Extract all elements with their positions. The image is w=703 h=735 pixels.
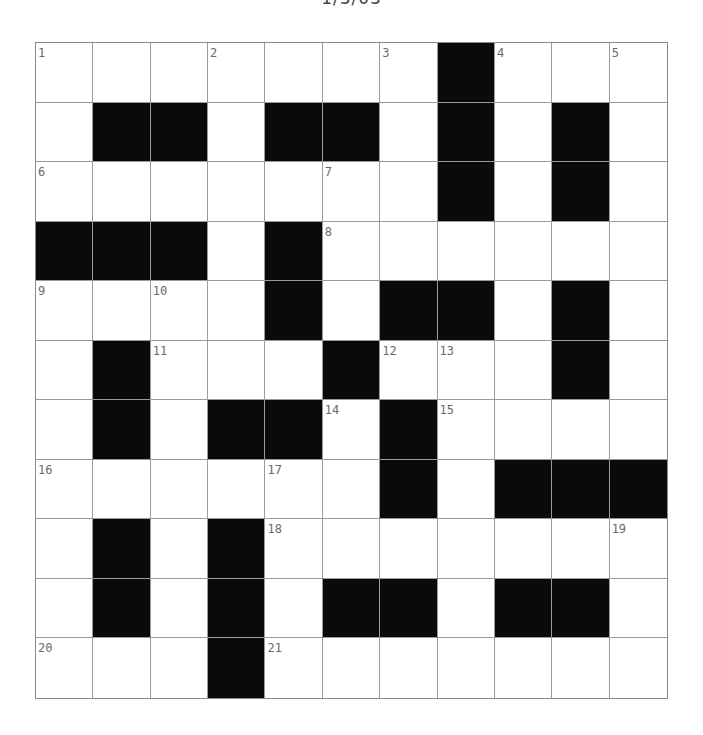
block-cell [552,341,609,401]
letter-cell[interactable] [552,638,609,698]
letter-cell[interactable] [495,222,552,282]
letter-cell[interactable]: 10 [151,281,208,341]
letter-cell[interactable] [208,460,265,520]
letter-cell[interactable] [610,341,667,401]
letter-cell[interactable] [265,341,322,401]
letter-cell[interactable]: 7 [323,162,380,222]
letter-cell[interactable]: 2 [208,43,265,103]
letter-cell[interactable] [36,341,93,401]
letter-cell[interactable]: 11 [151,341,208,401]
block-cell [93,103,150,163]
letter-cell[interactable] [552,400,609,460]
letter-cell[interactable] [495,162,552,222]
letter-cell[interactable] [552,222,609,282]
letter-cell[interactable] [380,162,437,222]
letter-cell[interactable] [610,281,667,341]
letter-cell[interactable] [208,162,265,222]
block-cell [265,400,322,460]
letter-cell[interactable] [36,579,93,639]
letter-cell[interactable] [380,222,437,282]
letter-cell[interactable] [151,638,208,698]
letter-cell[interactable]: 16 [36,460,93,520]
letter-cell[interactable] [610,400,667,460]
letter-cell[interactable]: 8 [323,222,380,282]
clue-number: 20 [38,641,52,655]
letter-cell[interactable] [380,103,437,163]
letter-cell[interactable] [495,281,552,341]
letter-cell[interactable] [323,638,380,698]
letter-cell[interactable] [610,579,667,639]
letter-cell[interactable] [36,519,93,579]
clue-number: 13 [440,344,454,358]
letter-cell[interactable]: 14 [323,400,380,460]
block-cell [552,162,609,222]
block-cell [93,400,150,460]
letter-cell[interactable] [552,43,609,103]
letter-cell[interactable] [610,103,667,163]
letter-cell[interactable] [495,341,552,401]
block-cell [265,103,322,163]
block-cell [438,103,495,163]
letter-cell[interactable] [438,579,495,639]
letter-cell[interactable] [610,222,667,282]
letter-cell[interactable] [438,638,495,698]
block-cell [438,43,495,103]
letter-cell[interactable] [323,43,380,103]
letter-cell[interactable] [93,460,150,520]
letter-cell[interactable]: 17 [265,460,322,520]
letter-cell[interactable] [380,519,437,579]
letter-cell[interactable] [36,400,93,460]
clue-number: 5 [612,46,619,60]
letter-cell[interactable] [438,222,495,282]
letter-cell[interactable]: 18 [265,519,322,579]
letter-cell[interactable]: 6 [36,162,93,222]
letter-cell[interactable] [151,460,208,520]
letter-cell[interactable] [495,103,552,163]
block-cell [323,103,380,163]
letter-cell[interactable] [93,281,150,341]
letter-cell[interactable]: 12 [380,341,437,401]
letter-cell[interactable] [151,43,208,103]
letter-cell[interactable] [208,281,265,341]
letter-cell[interactable] [323,519,380,579]
letter-cell[interactable]: 21 [265,638,322,698]
letter-cell[interactable] [495,519,552,579]
clue-number: 12 [382,344,396,358]
letter-cell[interactable] [380,638,437,698]
letter-cell[interactable] [208,103,265,163]
letter-cell[interactable] [151,400,208,460]
letter-cell[interactable] [610,162,667,222]
letter-cell[interactable]: 15 [438,400,495,460]
puzzle-title: 1/3/03 [0,0,703,8]
letter-cell[interactable] [151,579,208,639]
letter-cell[interactable] [208,222,265,282]
letter-cell[interactable] [438,460,495,520]
letter-cell[interactable] [265,162,322,222]
letter-cell[interactable] [265,43,322,103]
letter-cell[interactable] [323,460,380,520]
letter-cell[interactable]: 19 [610,519,667,579]
letter-cell[interactable] [151,519,208,579]
letter-cell[interactable] [495,400,552,460]
letter-cell[interactable] [323,281,380,341]
letter-cell[interactable]: 5 [610,43,667,103]
block-cell [552,579,609,639]
block-cell [552,281,609,341]
letter-cell[interactable]: 9 [36,281,93,341]
letter-cell[interactable] [93,162,150,222]
letter-cell[interactable] [495,638,552,698]
letter-cell[interactable] [610,638,667,698]
letter-cell[interactable] [151,162,208,222]
letter-cell[interactable] [265,579,322,639]
letter-cell[interactable] [93,43,150,103]
letter-cell[interactable]: 13 [438,341,495,401]
letter-cell[interactable] [438,519,495,579]
letter-cell[interactable] [552,519,609,579]
letter-cell[interactable]: 20 [36,638,93,698]
letter-cell[interactable]: 1 [36,43,93,103]
letter-cell[interactable] [36,103,93,163]
letter-cell[interactable]: 3 [380,43,437,103]
letter-cell[interactable] [208,341,265,401]
letter-cell[interactable]: 4 [495,43,552,103]
letter-cell[interactable] [93,638,150,698]
